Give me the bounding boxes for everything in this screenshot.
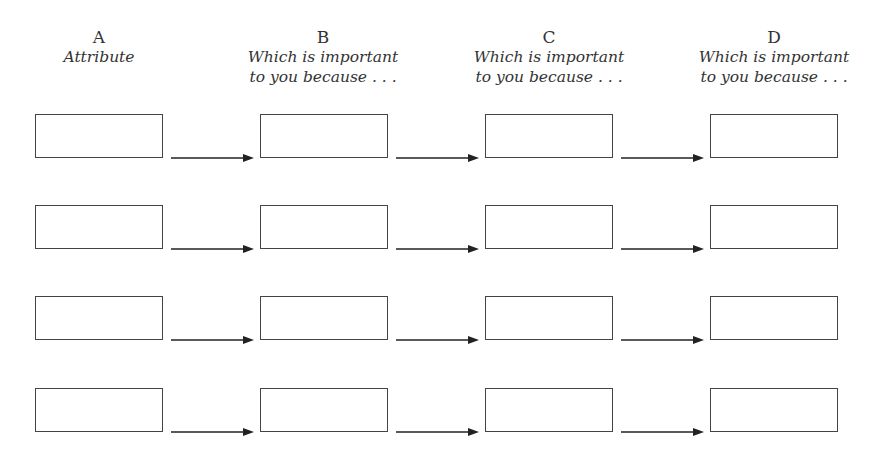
arrow-right-icon <box>171 244 254 254</box>
column-letter: D <box>664 27 884 47</box>
box-c-row-4 <box>485 388 613 432</box>
column-subtitle: Which is important <box>664 47 884 67</box>
column-subtitle-line2: to you because . . . <box>439 67 659 87</box>
box-c-row-3 <box>485 296 613 340</box>
column-letter: C <box>439 27 659 47</box>
arrow-right-icon <box>171 335 254 345</box>
box-a-row-3 <box>35 296 163 340</box>
box-d-row-1 <box>710 114 838 158</box>
box-d-row-3 <box>710 296 838 340</box>
arrow-right-icon <box>396 335 479 345</box>
column-header-b: B Which is important to you because . . … <box>213 27 433 87</box>
column-header-c: C Which is important to you because . . … <box>439 27 659 87</box>
arrow-right-icon <box>621 335 704 345</box>
arrow-right-icon <box>621 153 704 163</box>
arrow-right-icon <box>396 153 479 163</box>
box-c-row-1 <box>485 114 613 158</box>
box-d-row-4 <box>710 388 838 432</box>
column-subtitle: Attribute <box>0 47 209 67</box>
box-b-row-2 <box>260 205 388 249</box>
box-a-row-2 <box>35 205 163 249</box>
arrow-right-icon <box>396 427 479 437</box>
column-letter: A <box>0 27 209 47</box>
column-header-a: A Attribute <box>0 27 209 67</box>
arrow-right-icon <box>621 427 704 437</box>
column-subtitle-line2: to you because . . . <box>664 67 884 87</box>
box-c-row-2 <box>485 205 613 249</box>
column-header-d: D Which is important to you because . . … <box>664 27 884 87</box>
arrow-right-icon <box>171 427 254 437</box>
column-letter: B <box>213 27 433 47</box>
box-a-row-4 <box>35 388 163 432</box>
arrow-right-icon <box>171 153 254 163</box>
column-subtitle: Which is important <box>439 47 659 67</box>
arrow-right-icon <box>396 244 479 254</box>
box-a-row-1 <box>35 114 163 158</box>
column-subtitle-line2: to you because . . . <box>213 67 433 87</box>
arrow-right-icon <box>621 244 704 254</box>
box-b-row-4 <box>260 388 388 432</box>
column-subtitle: Which is important <box>213 47 433 67</box>
box-b-row-1 <box>260 114 388 158</box>
box-d-row-2 <box>710 205 838 249</box>
box-b-row-3 <box>260 296 388 340</box>
